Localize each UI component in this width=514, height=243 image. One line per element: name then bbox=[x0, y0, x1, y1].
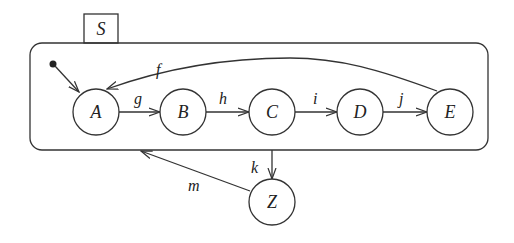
transition-label-g: g bbox=[134, 90, 142, 108]
state-label-a: A bbox=[90, 102, 103, 122]
initial-transition bbox=[55, 66, 79, 92]
transition-label-f: f bbox=[156, 61, 163, 79]
transition-label-h: h bbox=[219, 90, 227, 107]
transition-label-i: i bbox=[313, 90, 317, 107]
state-c: C bbox=[249, 89, 295, 135]
superstate-label: S bbox=[97, 19, 106, 39]
initial-state bbox=[50, 61, 80, 93]
transition-label-k: k bbox=[251, 159, 259, 176]
state-a: A bbox=[73, 89, 119, 135]
transition-label-m: m bbox=[188, 177, 200, 194]
state-e: E bbox=[427, 89, 473, 135]
state-label-b: B bbox=[178, 102, 189, 122]
transition-k: k bbox=[251, 150, 272, 179]
state-label-c: C bbox=[266, 102, 279, 122]
transition-m: m bbox=[141, 151, 250, 194]
transition-f: f bbox=[107, 58, 437, 91]
statechart-diagram: S g h i j f k m A B bbox=[0, 0, 514, 243]
state-d: D bbox=[337, 89, 383, 135]
transition-j: j bbox=[383, 90, 427, 112]
state-z: Z bbox=[249, 179, 295, 225]
state-label-z: Z bbox=[267, 192, 278, 212]
transition-g: g bbox=[119, 90, 160, 112]
state-label-e: E bbox=[444, 102, 456, 122]
state-label-d: D bbox=[353, 102, 367, 122]
transition-i: i bbox=[295, 90, 337, 112]
state-b: B bbox=[160, 89, 206, 135]
transition-label-j: j bbox=[397, 90, 404, 108]
transition-h: h bbox=[206, 90, 249, 112]
